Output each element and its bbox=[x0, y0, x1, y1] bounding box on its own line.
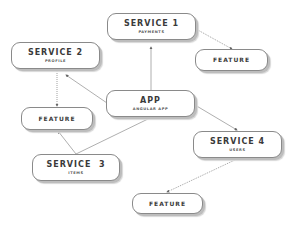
app-subtitle: ANGULAR APP bbox=[133, 106, 168, 112]
feature-left-title: FEATURE bbox=[38, 114, 75, 124]
service4-subtitle: USERS bbox=[229, 147, 245, 153]
service1-title: SERVICE 1 bbox=[124, 19, 179, 29]
app-title: APP bbox=[140, 96, 161, 106]
feature-bottom-title: FEATURE bbox=[149, 199, 186, 209]
service3-title: SERVICE 3 bbox=[46, 160, 105, 170]
edge-service1-feature-top bbox=[196, 29, 232, 49]
service3-subtitle: ITEMS bbox=[68, 170, 83, 176]
app-node[interactable]: APP ANGULAR APP bbox=[106, 90, 195, 117]
service4-node[interactable]: SERVICE 4 USERS bbox=[193, 131, 282, 158]
service1-subtitle: PAYMENTS bbox=[138, 29, 164, 35]
feature-bottom-node[interactable]: FEATURE bbox=[132, 193, 203, 214]
edge-app-service2 bbox=[66, 75, 107, 103]
service2-node[interactable]: SERVICE 2 PROFILE bbox=[11, 42, 100, 69]
service2-title: SERVICE 2 bbox=[28, 48, 83, 58]
feature-top-node[interactable]: FEATURE bbox=[195, 49, 268, 71]
service2-subtitle: PROFILE bbox=[45, 58, 66, 64]
service4-title: SERVICE 4 bbox=[210, 137, 265, 147]
edge-app-service4 bbox=[195, 105, 237, 130]
edge-service4-feature-bottom bbox=[167, 159, 237, 192]
feature-top-title: FEATURE bbox=[213, 55, 250, 65]
service1-node[interactable]: SERVICE 1 PAYMENTS bbox=[107, 13, 196, 40]
service3-node[interactable]: SERVICE 3 ITEMS bbox=[32, 154, 120, 181]
feature-left-node[interactable]: FEATURE bbox=[21, 107, 93, 130]
edge-service3-feature-left bbox=[58, 131, 76, 154]
